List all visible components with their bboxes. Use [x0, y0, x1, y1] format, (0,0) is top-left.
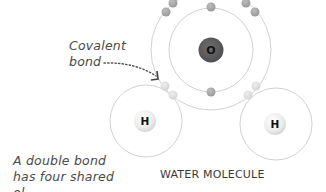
- shared-electron: [161, 82, 170, 91]
- oxygen-symbol: O: [206, 44, 215, 57]
- note-line2: has four shared: [13, 169, 114, 185]
- note-line1: A double bond: [13, 153, 114, 169]
- hydrogen-left-symbol: H: [141, 115, 150, 127]
- electron: [251, 8, 260, 17]
- hydrogen-right-atom: H: [264, 113, 286, 135]
- electron: [162, 8, 171, 17]
- electron: [242, 0, 251, 8]
- hydrogen-right-symbol: H: [271, 118, 280, 130]
- note-line3: el: [13, 185, 114, 192]
- electron: [207, 88, 216, 97]
- shared-electron: [169, 91, 178, 100]
- covalent-label-line1: Covalent: [69, 38, 126, 53]
- electron: [207, 3, 216, 12]
- double-bond-note: A double bond has four shared el: [13, 153, 114, 192]
- oxygen-atom: O: [199, 38, 224, 63]
- covalent-label-line2: bond: [69, 54, 126, 69]
- diagram-caption: WATER MOLECULE: [160, 168, 265, 181]
- hydrogen-left-atom: H: [134, 110, 156, 132]
- shared-electron: [252, 82, 261, 91]
- shared-electron: [244, 91, 253, 100]
- arrow-head-icon: [151, 71, 158, 80]
- covalent-bond-label: Covalent bond: [69, 38, 126, 69]
